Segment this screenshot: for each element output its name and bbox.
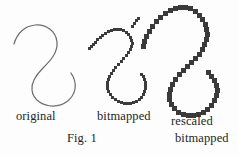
label-original: original <box>16 109 56 124</box>
figure-number-caption: Fig. 1 <box>67 131 97 146</box>
label-rescaled-line1: rescaled <box>171 114 213 129</box>
curve-rescaled-bitmapped <box>141 5 220 118</box>
figure-container: original bitmapped rescaled bitmapped Fi… <box>0 0 238 155</box>
curve-bitmapped <box>88 17 147 105</box>
label-bitmapped: bitmapped <box>97 109 151 124</box>
label-rescaled-line2: bitmapped <box>175 131 229 146</box>
curve-original <box>14 25 75 106</box>
